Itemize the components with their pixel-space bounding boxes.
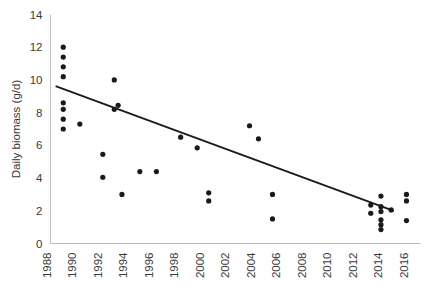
y-tick-label: 8 xyxy=(36,107,42,119)
scatter-point xyxy=(112,77,117,82)
chart-figure: 02468101214 1988199019921994199619982000… xyxy=(0,0,433,297)
scatter-point xyxy=(61,64,66,69)
scatter-point xyxy=(206,198,211,203)
x-tick-label: 2008 xyxy=(296,253,308,279)
scatter-point xyxy=(404,198,409,203)
chart-background xyxy=(0,0,433,297)
x-tick-label: 2002 xyxy=(219,253,231,279)
scatter-point xyxy=(116,103,121,108)
scatter-point xyxy=(378,222,383,227)
x-tick-label: 1988 xyxy=(41,253,53,279)
y-tick-label: 0 xyxy=(36,238,42,250)
scatter-point xyxy=(270,216,275,221)
scatter-point xyxy=(378,217,383,222)
scatter-point xyxy=(61,100,66,105)
y-axis-title: Daily biomass (g/d) xyxy=(10,80,22,179)
x-tick-label: 1998 xyxy=(168,253,180,279)
scatter-point xyxy=(61,126,66,131)
scatter-point xyxy=(154,169,159,174)
scatter-point xyxy=(61,45,66,50)
x-tick-label: 2010 xyxy=(321,253,333,279)
x-tick-label: 2016 xyxy=(398,253,410,279)
scatter-point xyxy=(61,107,66,112)
scatter-point xyxy=(100,175,105,180)
scatter-point xyxy=(137,169,142,174)
x-tick-label: 2012 xyxy=(347,253,359,279)
y-tick-label: 4 xyxy=(36,172,43,184)
scatter-point xyxy=(270,192,275,197)
scatter-point xyxy=(178,135,183,140)
y-tick-label: 12 xyxy=(30,41,43,53)
x-tick-label: 2006 xyxy=(270,253,282,279)
scatter-point xyxy=(61,117,66,122)
scatter-point xyxy=(195,145,200,150)
scatter-point xyxy=(378,193,383,198)
scatter-point xyxy=(378,209,383,214)
scatter-point xyxy=(256,136,261,141)
y-axis-title-text: Daily biomass (g/d) xyxy=(10,80,22,179)
scatter-point xyxy=(100,152,105,157)
scatter-point xyxy=(77,121,82,126)
scatter-point xyxy=(61,54,66,59)
y-tick-label: 10 xyxy=(30,74,43,86)
scatter-plot-svg: 02468101214 1988199019921994199619982000… xyxy=(0,0,433,297)
scatter-point xyxy=(247,123,252,128)
x-tick-label: 2014 xyxy=(372,252,384,278)
x-axis-tick-labels: 1988199019921994199619982000200220042006… xyxy=(41,252,410,278)
y-tick-label: 14 xyxy=(30,9,43,21)
scatter-point xyxy=(368,211,373,216)
scatter-point xyxy=(119,192,124,197)
scatter-point xyxy=(404,218,409,223)
x-tick-label: 1992 xyxy=(92,253,104,279)
scatter-point xyxy=(61,74,66,79)
x-tick-label: 2004 xyxy=(245,252,257,278)
scatter-point xyxy=(378,227,383,232)
scatter-point xyxy=(404,192,409,197)
y-tick-label: 2 xyxy=(36,205,42,217)
scatter-point xyxy=(206,190,211,195)
x-tick-label: 2000 xyxy=(194,253,206,279)
x-tick-label: 1990 xyxy=(66,253,78,279)
x-tick-label: 1994 xyxy=(117,252,129,278)
x-tick-label: 1996 xyxy=(143,253,155,279)
y-tick-label: 6 xyxy=(36,139,42,151)
